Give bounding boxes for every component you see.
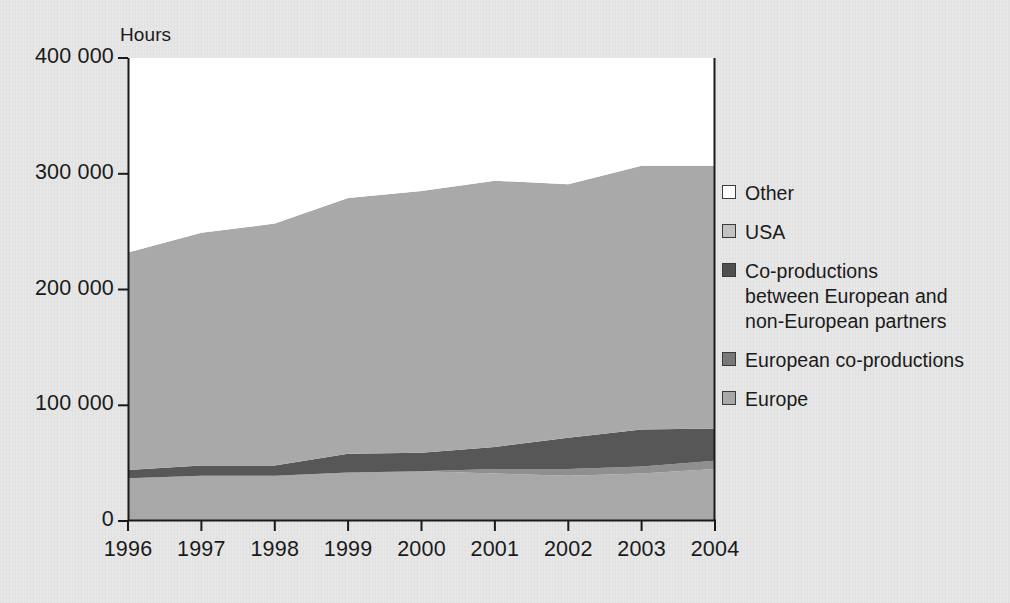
stacked-area-chart: Hours 0100 000200 000300 000400 000 1996…	[0, 0, 1010, 603]
legend-label-europe: Europe	[745, 387, 808, 412]
legend-swatch-european-coproductions	[722, 352, 736, 366]
y-tick-label: 200 000	[35, 276, 114, 301]
legend-swatch-coproductions-mixed	[722, 263, 736, 277]
x-tick-label: 2004	[675, 537, 755, 562]
x-axis-ticks	[128, 521, 715, 531]
legend-item-other[interactable]: Other	[722, 181, 1002, 206]
x-tick-label: 1997	[161, 537, 241, 562]
y-axis-ticks	[118, 58, 128, 521]
legend-label-usa: USA	[745, 220, 785, 245]
legend-item-coproductions-mixed[interactable]: Co-productions between European and non-…	[722, 259, 1002, 334]
legend-label-european-coproductions: European co-productions	[745, 348, 964, 373]
legend-label-other: Other	[745, 181, 794, 206]
x-tick-label: 1996	[88, 537, 168, 562]
legend-item-european-coproductions[interactable]: European co-productions	[722, 348, 1002, 373]
x-tick-label: 2003	[602, 537, 682, 562]
x-tick-label: 2001	[455, 537, 535, 562]
y-tick-label: 100 000	[35, 391, 114, 416]
legend-swatch-europe	[722, 391, 736, 405]
y-tick-label: 400 000	[35, 44, 114, 69]
legend-label-coproductions-mixed: Co-productions between European and non-…	[745, 259, 948, 334]
x-tick-label: 2000	[382, 537, 462, 562]
y-tick-label: 300 000	[35, 160, 114, 185]
x-tick-label: 1999	[308, 537, 388, 562]
legend-item-usa[interactable]: USA	[722, 220, 1002, 245]
area-band-europe	[128, 469, 715, 521]
legend-swatch-usa	[722, 224, 736, 238]
x-tick-label: 2002	[528, 537, 608, 562]
legend-item-europe[interactable]: Europe	[722, 387, 1002, 412]
y-tick-label: 0	[102, 507, 114, 532]
legend-swatch-other	[722, 185, 736, 199]
x-tick-label: 1998	[235, 537, 315, 562]
chart-legend: Other USA Co-productions between Europea…	[722, 181, 1002, 426]
